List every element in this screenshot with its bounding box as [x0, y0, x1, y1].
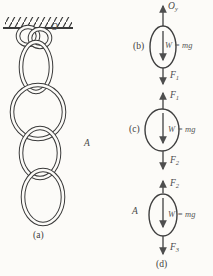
force-label-f3-d-sub: 3 — [176, 246, 179, 253]
force-label-f2-c: F2 — [170, 156, 179, 167]
force-label-f2-d: F2 — [170, 179, 179, 190]
physics-figure-chain-free-body: O A (a) Oy (b) W = mg F1 F1 (c) W = mg F… — [0, 0, 213, 276]
force-label-f1-b: F1 — [170, 71, 179, 82]
panel-b-label: (b) — [133, 42, 144, 52]
force-label-f3-d: F3 — [170, 243, 179, 254]
chain — [12, 27, 64, 224]
force-label-oy-sub: y — [175, 5, 178, 12]
force-label-f2-d-sub: 2 — [176, 182, 179, 189]
force-label-oy-main: O — [168, 1, 175, 11]
force-label-oy: Oy — [168, 2, 178, 13]
weight-label-d: W = mg — [168, 210, 195, 219]
panel-c-label: (c) — [129, 125, 140, 135]
weight-label-c: W = mg — [168, 125, 195, 134]
fbd-d-link-A-label: A — [132, 207, 138, 217]
panel-d-label: (d) — [156, 260, 167, 270]
panel-a-label: (a) — [33, 231, 44, 241]
ceiling — [3, 17, 73, 28]
hang-point-O-label: O — [51, 23, 58, 33]
chain-link-A-label: A — [84, 139, 90, 149]
force-label-f1-c: F1 — [170, 91, 179, 102]
force-label-f1-b-sub: 1 — [176, 74, 179, 81]
weight-label-b: W = mg — [165, 41, 192, 50]
ceiling-hatching — [5, 17, 72, 28]
force-label-f2-c-sub: 2 — [176, 159, 179, 166]
force-label-f1-c-sub: 1 — [176, 94, 179, 101]
